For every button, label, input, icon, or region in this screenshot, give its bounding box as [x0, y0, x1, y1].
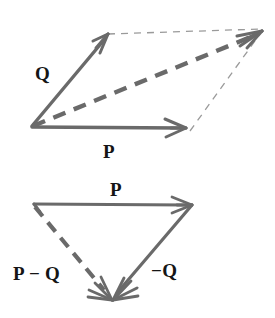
label-vector-p-minus-q: P − Q — [13, 263, 60, 284]
label-vector-p-bottom: P — [110, 179, 122, 200]
label-vector-p-top: P — [103, 141, 115, 162]
vector-diagram-figure: Q P P −Q P − Q — [0, 0, 275, 318]
vector-p-shaft — [32, 127, 180, 128]
construction-line-q-to-corner — [108, 29, 261, 34]
label-vector-minus-q: −Q — [151, 260, 177, 281]
panel-parallelogram-law — [32, 29, 262, 137]
label-vector-q-top: Q — [35, 63, 50, 84]
vector-p-plus-q-shaft — [33, 36, 253, 126]
panel-triangle-law — [34, 197, 192, 300]
vector-p-bottom-shaft — [34, 204, 186, 205]
vector-diagram-canvas: Q P P −Q P − Q — [0, 0, 275, 318]
vector-p-minus-q-arrowhead — [88, 277, 112, 300]
